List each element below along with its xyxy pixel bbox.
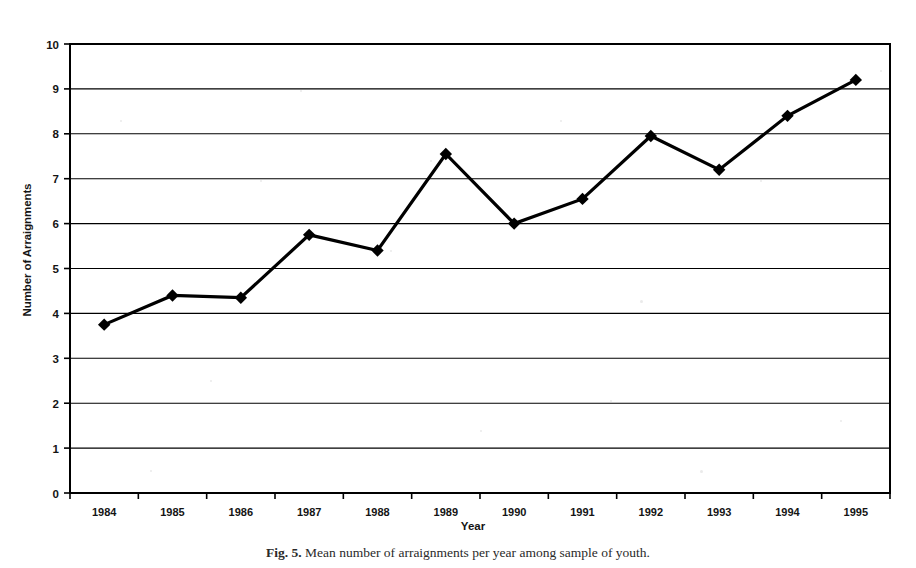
y-axis-tick-label: 8 — [53, 128, 60, 140]
scan-speck — [260, 180, 262, 182]
y-axis-tick-label: 1 — [53, 443, 60, 455]
x-axis-tick-label: 1984 — [92, 506, 117, 518]
scan-speck — [120, 120, 122, 122]
y-axis-tick-label: 4 — [53, 308, 60, 320]
scan-speck — [390, 250, 392, 252]
y-axis-tick-label: 2 — [53, 398, 59, 410]
x-axis-tick-label: 1993 — [707, 506, 731, 518]
x-axis-tick-label: 1985 — [160, 506, 184, 518]
scan-speck — [840, 420, 842, 422]
scan-speck — [300, 90, 302, 92]
x-axis-tick-label: 1989 — [434, 506, 458, 518]
x-axis-tick-label: 1995 — [844, 506, 868, 518]
figure: 012345678910 198419851986198719881989199… — [0, 0, 916, 568]
x-axis-title: Year — [0, 520, 916, 532]
x-axis-title-text: Year — [461, 520, 485, 532]
y-axis-tick-label: 0 — [53, 488, 59, 500]
chart-background — [0, 0, 916, 530]
y-axis-tick-label: 10 — [46, 39, 59, 51]
scan-speck — [210, 380, 212, 382]
scan-speck — [760, 180, 762, 182]
scan-speck — [880, 70, 882, 72]
scan-speck — [700, 470, 703, 473]
scan-speck — [640, 300, 643, 303]
chart-area: 012345678910 198419851986198719881989199… — [0, 0, 916, 530]
figure-caption-text: Mean number of arraignments per year amo… — [305, 545, 650, 560]
scan-speck — [480, 430, 482, 432]
x-axis-tick-label: 1990 — [502, 506, 526, 518]
scan-speck — [430, 160, 432, 162]
figure-caption: Fig. 5. Mean number of arraignments per … — [0, 545, 916, 561]
x-axis-tick-label: 1992 — [639, 506, 663, 518]
line-chart: 012345678910 198419851986198719881989199… — [0, 0, 916, 530]
x-axis-tick-label: 1988 — [365, 506, 389, 518]
scan-speck — [610, 400, 612, 402]
x-axis-tick-label: 1987 — [297, 506, 321, 518]
y-axis-tick-label: 5 — [53, 263, 60, 275]
y-axis-tick-label: 9 — [53, 83, 59, 95]
y-axis-tick-label: 7 — [53, 173, 59, 185]
y-axis-tick-label: 6 — [53, 218, 59, 230]
x-axis-tick-label: 1994 — [775, 506, 800, 518]
x-axis-tick-label: 1991 — [570, 506, 594, 518]
scan-speck — [150, 470, 152, 472]
y-axis-tick-label: 3 — [53, 353, 59, 365]
scan-speck — [560, 120, 562, 122]
x-axis-tick-label: 1986 — [229, 506, 253, 518]
figure-caption-label: Fig. 5. — [266, 545, 302, 560]
